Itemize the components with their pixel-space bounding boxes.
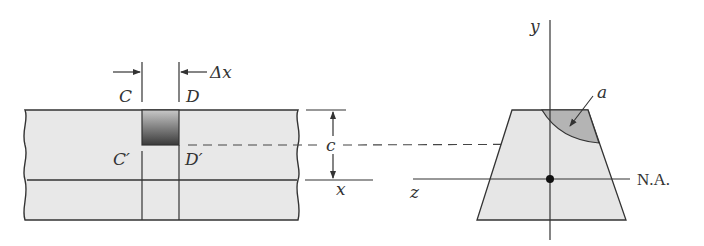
label-y-axis: y [529,16,540,36]
dimension-c: c x [305,110,373,199]
label-D-prime: D′ [184,149,203,169]
cross-section: y a z N.A. [409,16,670,240]
label-D: D [185,86,200,106]
label-z-axis: z [409,182,420,202]
label-x-axis: x [336,179,346,199]
beam-side-view: Δx C D C′ D′ [24,62,299,220]
label-c: c [326,135,336,155]
label-delta-x: Δx [209,62,232,82]
figure-canvas: Δx C D C′ D′ c x [0,0,704,246]
diagram-svg: Δx C D C′ D′ c x [0,0,704,246]
element-CD [142,110,179,145]
label-a: a [597,82,607,102]
label-C: C [119,86,132,106]
trapezoid-section [477,110,626,220]
centroid-dot [546,175,554,183]
label-neutral-axis: N.A. [637,170,670,189]
label-C-prime: C′ [113,149,130,169]
